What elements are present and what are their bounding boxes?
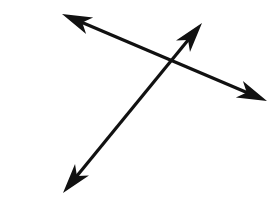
figure-canvas: Two intersecting lines <box>0 0 274 215</box>
intersecting-lines-diagram <box>0 0 274 215</box>
figure-background <box>0 0 274 215</box>
